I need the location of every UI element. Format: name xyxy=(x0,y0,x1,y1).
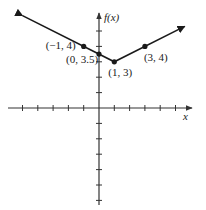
data-point xyxy=(142,44,147,49)
graph-canvas: x f(x) (−1, 4)(0, 3.5)(1, 3)(3, 4) xyxy=(0,0,206,210)
data-point xyxy=(81,44,86,49)
point-label: (1, 3) xyxy=(108,66,132,79)
point-label: (−1, 4) xyxy=(46,39,76,52)
x-axis: x xyxy=(8,105,192,122)
point-label: (0, 3.5) xyxy=(66,53,98,66)
labeled-points: (−1, 4)(0, 3.5)(1, 3)(3, 4) xyxy=(46,39,168,78)
point-label: (3, 4) xyxy=(144,51,168,64)
x-axis-label: x xyxy=(182,110,188,122)
data-point xyxy=(112,59,117,64)
y-axis-label: f(x) xyxy=(104,11,120,24)
